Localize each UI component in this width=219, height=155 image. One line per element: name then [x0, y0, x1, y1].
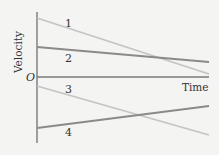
line-2	[37, 47, 209, 62]
line-3-label: 3	[65, 83, 72, 96]
line-1-label: 1	[65, 17, 72, 30]
line-2-label: 2	[65, 52, 72, 65]
x-axis-label: Time	[182, 81, 209, 93]
line-4	[37, 106, 209, 128]
diagram-canvas: 1 2 3 4 O Time Velocity	[0, 0, 219, 155]
origin-label: O	[26, 71, 35, 84]
line-1	[37, 18, 209, 74]
line-3	[37, 86, 209, 135]
velocity-time-diagram: 1 2 3 4 O Time Velocity	[0, 0, 219, 155]
y-axis-label: Velocity	[12, 31, 24, 74]
line-4-label: 4	[65, 126, 72, 139]
